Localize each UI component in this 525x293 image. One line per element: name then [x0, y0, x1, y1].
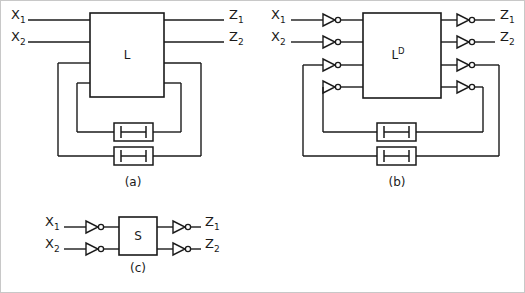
- inverter-feedback-b3: [323, 59, 341, 71]
- logic-box-label-c: S: [134, 229, 142, 243]
- label-input-x2-b: X2: [271, 29, 286, 47]
- delay-element-a2: [114, 147, 153, 165]
- inverter-output-c4: [173, 243, 191, 255]
- label-input-x2-c: X2: [45, 236, 60, 254]
- delay-element-b1: [377, 123, 416, 141]
- label-output-z2-c: Z2: [205, 236, 220, 254]
- inverter-output-c3: [173, 221, 191, 233]
- panel-b: X1 X2 Z1 Z2 LD (b): [271, 7, 515, 189]
- caption-panel-b: (b): [389, 175, 406, 189]
- caption-panel-c: (c): [130, 261, 146, 275]
- inverter-input-b1: [323, 14, 341, 26]
- label-output-z1-b: Z1: [500, 7, 515, 25]
- label-output-z1-c: Z1: [205, 214, 220, 232]
- inverter-feedback-b4: [323, 81, 341, 93]
- panel-c: X1 X2 Z1 Z2 S (c): [45, 214, 220, 275]
- figure-canvas: X1 X2 Z1 Z2 L (a): [0, 0, 525, 293]
- label-input-x2-a: X2: [11, 29, 26, 47]
- inverter-input-c2: [86, 243, 104, 255]
- delay-element-b2: [377, 147, 416, 165]
- logic-box-label-a: L: [124, 48, 131, 62]
- inverter-output-b6: [457, 36, 475, 48]
- label-input-x1-a: X1: [11, 7, 26, 25]
- label-output-z2-b: Z2: [500, 29, 515, 47]
- label-output-z1-a: Z1: [229, 7, 244, 25]
- label-input-x1-c: X1: [45, 214, 60, 232]
- inverter-output-b5: [457, 14, 475, 26]
- inverter-input-b2: [323, 36, 341, 48]
- inverter-input-c1: [86, 221, 104, 233]
- label-input-x1-b: X1: [271, 7, 286, 25]
- delay-element-a1: [114, 123, 153, 141]
- label-output-z2-a: Z2: [229, 29, 244, 47]
- inverter-output-b7: [457, 59, 475, 71]
- caption-panel-a: (a): [125, 175, 142, 189]
- panel-a: X1 X2 Z1 Z2 L (a): [11, 7, 244, 189]
- inverter-output-b8: [457, 81, 475, 93]
